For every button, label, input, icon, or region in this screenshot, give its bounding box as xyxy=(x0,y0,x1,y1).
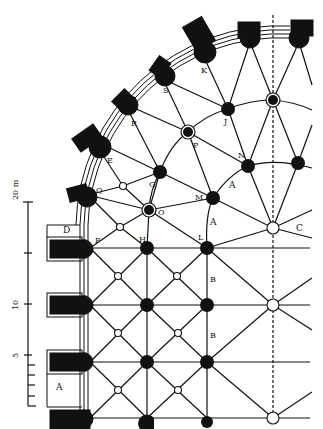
label-A-left: A xyxy=(55,382,63,392)
label-M: M xyxy=(195,193,203,202)
scale-label-10: 10 xyxy=(11,300,20,310)
label-H: H xyxy=(139,235,146,244)
label-R: R xyxy=(131,119,138,128)
buttresses-west xyxy=(50,240,93,429)
scale-label-20: 20 m xyxy=(11,179,20,200)
pier-O xyxy=(144,205,154,215)
outer-wall-curved xyxy=(76,26,290,225)
label-Q: Q xyxy=(96,186,103,195)
label-S: S xyxy=(163,86,168,95)
label-A2: A xyxy=(209,217,217,227)
pier-N xyxy=(241,159,255,173)
label-B2: B xyxy=(210,331,216,340)
pier-L xyxy=(200,241,214,255)
pier-G xyxy=(153,165,167,179)
label-P: P xyxy=(193,141,199,150)
label-L: L xyxy=(198,233,204,242)
label-O: O xyxy=(158,208,165,217)
label-G: G xyxy=(149,180,155,189)
label-J: J xyxy=(223,117,227,126)
architectural-plan: 20 m 10 5 xyxy=(0,0,323,429)
pier-P xyxy=(183,127,193,137)
label-N: N xyxy=(238,151,245,160)
scale-bar xyxy=(23,202,36,406)
label-C: C xyxy=(296,223,303,233)
label-D: D xyxy=(63,225,70,235)
label-K: K xyxy=(201,66,208,75)
label-F: F xyxy=(95,236,101,245)
buttresses-curved xyxy=(67,16,313,207)
pier-J xyxy=(221,102,235,116)
pier-M xyxy=(206,191,220,205)
label-B1: B xyxy=(210,275,216,284)
label-E: E xyxy=(107,156,113,165)
label-A1: A xyxy=(228,180,236,190)
scale-label-5: 5 xyxy=(11,353,20,358)
keystone-C xyxy=(267,222,279,234)
